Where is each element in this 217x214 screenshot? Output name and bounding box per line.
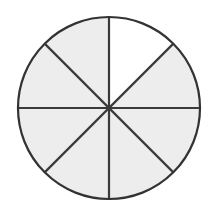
sector-1 [109, 44, 200, 108]
circle-eighths-diagram [0, 0, 217, 214]
figure-canvas [0, 0, 217, 214]
